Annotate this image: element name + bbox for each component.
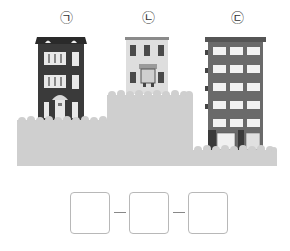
answer-box-1[interactable] [70,192,110,234]
building-c [205,37,266,150]
separator-2 [173,212,185,213]
separator-1 [114,212,126,213]
building-b [125,37,169,94]
answer-box-3[interactable] [188,192,228,234]
buildings-scene [0,0,290,175]
building-a [35,37,87,122]
answer-box-2[interactable] [129,192,169,234]
